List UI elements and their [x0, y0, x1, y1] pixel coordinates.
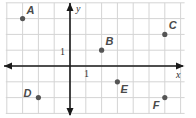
x-unit-label: 1 — [84, 68, 89, 79]
y-axis-up-arrow-icon — [67, 3, 74, 11]
y-unit-label: 1 — [60, 46, 65, 57]
point-label: B — [106, 35, 114, 47]
point-dot-icon — [162, 32, 167, 37]
point-dot-icon — [115, 79, 120, 84]
y-axis-label: y — [75, 3, 81, 14]
coordinate-plane: y x 1 1 ABCDEF — [0, 0, 196, 118]
point-dot-icon — [20, 16, 25, 21]
point-label: C — [169, 19, 178, 31]
points: ABCDEF — [20, 4, 178, 111]
point-label: D — [23, 87, 31, 99]
point-label: F — [153, 99, 160, 111]
point-dot-icon — [162, 95, 167, 100]
point-label: E — [120, 83, 128, 95]
grid-lines — [6, 3, 185, 114]
point-dot-icon — [99, 48, 104, 53]
y-axis-down-arrow-icon — [67, 108, 74, 116]
point-label: A — [26, 4, 35, 16]
x-axis-label: x — [175, 69, 181, 80]
x-axis-left-arrow-icon — [4, 63, 12, 70]
point-dot-icon — [36, 95, 41, 100]
